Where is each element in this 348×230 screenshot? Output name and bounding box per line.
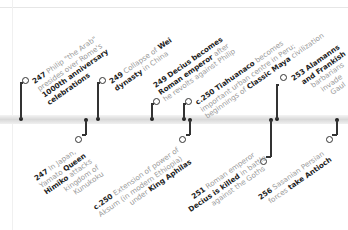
event-ring-icon — [179, 136, 186, 143]
connector-line — [266, 156, 271, 158]
connector-line — [276, 84, 278, 119]
connector-line — [183, 103, 185, 119]
connector-line — [332, 134, 337, 136]
event-ring-icon — [153, 98, 160, 105]
event-label: 251 Roman emperor Decius is killed in ba… — [182, 147, 273, 221]
page-top-rule — [0, 7, 348, 8]
timeline-bar — [0, 115, 348, 124]
connector-line — [151, 103, 153, 119]
event-ring-icon — [22, 77, 29, 84]
connector-line — [189, 120, 191, 135]
connector-line — [82, 134, 86, 136]
event-ring-icon — [185, 98, 192, 105]
connector-line — [276, 84, 279, 86]
event-label: c.250 Extension of power of Aksum (in mo… — [92, 144, 194, 226]
connector-line — [270, 120, 272, 157]
connector-line — [85, 120, 87, 135]
connector-line — [97, 82, 99, 119]
event-ring-icon — [280, 74, 287, 81]
connector-line — [336, 120, 338, 135]
event-ring-icon — [326, 136, 333, 143]
connector-line — [186, 134, 190, 136]
event-ring-icon — [99, 77, 106, 84]
event-label: 247 Philip "the Arab" presides over Rome… — [31, 34, 115, 108]
connector-line — [20, 82, 22, 119]
